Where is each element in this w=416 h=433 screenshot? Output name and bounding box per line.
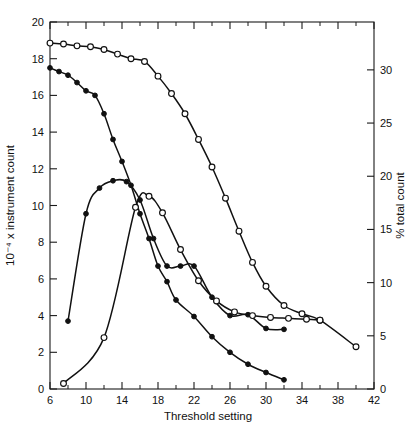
y-tick-label-right: 15 [380, 223, 392, 235]
x-tick-label: 38 [332, 394, 344, 406]
data-point-integral-filled [174, 298, 179, 303]
data-point-integral-open [88, 44, 94, 50]
data-point-integral-filled [93, 93, 98, 98]
data-point-differential-open [232, 309, 238, 315]
data-point-differential-open [160, 210, 166, 216]
data-point-integral-filled [264, 370, 269, 375]
x-tick-label: 34 [296, 394, 308, 406]
data-point-integral-open [47, 40, 53, 46]
data-point-differential-filled [66, 319, 71, 324]
y-axis-title-left: 10⁻⁴ x instrument count [4, 144, 16, 266]
x-tick-label: 6 [47, 394, 53, 406]
y-tick-label-left: 6 [38, 273, 44, 285]
x-tick-label: 30 [260, 394, 272, 406]
y-tick-label-left: 0 [38, 383, 44, 395]
y-tick-label-right: 25 [380, 117, 392, 129]
data-point-integral-filled [57, 69, 62, 74]
data-point-differential-filled [151, 236, 156, 241]
data-point-differential-filled [264, 326, 269, 331]
data-point-differential-filled [84, 211, 89, 216]
data-point-integral-open [209, 164, 215, 170]
data-point-integral-filled [120, 159, 125, 164]
data-point-differential-open [317, 317, 323, 323]
y-tick-label-right: 5 [380, 330, 386, 342]
data-point-integral-open [182, 111, 188, 117]
data-point-integral-filled [228, 350, 233, 355]
x-axis-title: Threshold setting [164, 410, 252, 422]
x-tick-label: 10 [80, 394, 92, 406]
data-point-differential-open [61, 381, 67, 387]
y-tick-label-right: 10 [380, 277, 392, 289]
data-point-differential-filled [282, 327, 287, 332]
y-tick-label-left: 18 [32, 53, 44, 65]
data-point-differential-open [286, 315, 292, 321]
data-point-integral-filled [84, 88, 89, 93]
y-tick-label-right: 0 [380, 383, 386, 395]
data-point-integral-open [236, 228, 242, 234]
data-point-differential-filled [138, 198, 143, 203]
series-line-differential-filled [68, 180, 284, 330]
chart-figure: 6101418222630343842024681012141618200510… [0, 0, 416, 433]
data-point-integral-filled [102, 111, 107, 116]
y-tick-label-left: 10 [32, 200, 44, 212]
data-point-integral-open [128, 56, 134, 62]
y-tick-label-left: 20 [32, 16, 44, 28]
y-tick-label-left: 2 [38, 346, 44, 358]
y-tick-label-right: 30 [380, 64, 392, 76]
data-point-integral-filled [111, 137, 116, 142]
data-point-integral-filled [156, 264, 161, 269]
data-point-integral-filled [165, 279, 170, 284]
data-point-differential-open [214, 298, 220, 304]
data-point-integral-open [74, 43, 80, 49]
x-tick-label: 14 [116, 394, 128, 406]
data-point-integral-filled [75, 80, 80, 85]
data-point-integral-filled [246, 362, 251, 367]
data-point-differential-filled [165, 264, 170, 269]
y-tick-label-left: 14 [32, 126, 44, 138]
y-tick-label-right: 20 [380, 170, 392, 182]
data-point-differential-filled [124, 179, 129, 184]
data-point-differential-open [178, 247, 184, 253]
data-point-differential-open [196, 278, 202, 284]
data-point-integral-open [142, 59, 148, 65]
data-point-differential-open [146, 193, 152, 199]
data-point-integral-open [250, 259, 256, 265]
data-point-integral-open [263, 283, 269, 289]
data-point-differential-filled [192, 264, 197, 269]
data-point-integral-open [281, 303, 287, 309]
y-tick-label-left: 8 [38, 236, 44, 248]
data-point-integral-open [155, 73, 161, 79]
x-tick-label: 26 [224, 394, 236, 406]
data-point-differential-open [304, 316, 310, 322]
data-point-integral-filled [282, 377, 287, 382]
data-point-integral-open [101, 47, 107, 53]
data-point-integral-filled [192, 314, 197, 319]
y-tick-label-left: 12 [32, 163, 44, 175]
data-point-differential-open [101, 335, 107, 341]
x-tick-label: 22 [188, 394, 200, 406]
data-point-integral-filled [210, 334, 215, 339]
data-point-integral-filled [129, 183, 134, 188]
data-point-integral-filled [138, 211, 143, 216]
data-point-integral-open [169, 91, 175, 97]
data-point-differential-filled [97, 186, 102, 191]
x-tick-label: 42 [368, 394, 380, 406]
data-point-integral-open [61, 41, 67, 47]
y-tick-label-left: 4 [38, 310, 44, 322]
data-point-integral-filled [48, 65, 53, 70]
data-point-integral-open [223, 195, 229, 201]
data-point-differential-filled [178, 264, 183, 269]
data-point-differential-open [268, 315, 274, 321]
data-point-differential-filled [111, 178, 116, 183]
chart-svg: 6101418222630343842024681012141618200510… [0, 0, 416, 433]
data-point-differential-open [133, 204, 139, 210]
x-tick-label: 18 [152, 394, 164, 406]
series-line-integral-filled [50, 68, 284, 380]
data-point-differential-open [250, 313, 256, 319]
series-line-differential-open [64, 193, 321, 384]
data-point-integral-filled [66, 73, 71, 78]
data-point-integral-open [299, 311, 305, 317]
series-line-integral-open [50, 43, 356, 347]
data-point-integral-open [353, 344, 359, 350]
data-point-integral-open [196, 137, 202, 143]
